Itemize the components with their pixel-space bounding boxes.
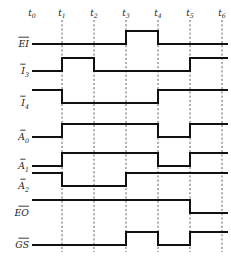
- waveform-EI: [32, 31, 228, 44]
- signal-label-A0: A0: [17, 131, 29, 144]
- signal-label-A2: A2: [17, 180, 29, 193]
- time-tick-label-t6: t6: [218, 8, 226, 19]
- time-tick-label-t5: t5: [186, 8, 194, 19]
- timing-diagram-canvas: t0t1t2t3t4t5t6 EII3I4A0A1A2EOGS: [0, 0, 231, 258]
- waveform-I4: [32, 90, 228, 103]
- timing-diagram: t0t1t2t3t4t5t6 EII3I4A0A1A2EOGS: [0, 0, 231, 258]
- time-tick-label-t2: t2: [90, 8, 98, 19]
- waveform-GS: [32, 232, 228, 245]
- signal-label-EI: EI: [18, 38, 30, 49]
- signal-label-I4: I4: [20, 97, 29, 110]
- signal-label-EO: EO: [14, 207, 30, 218]
- waveform-A0: [32, 124, 228, 137]
- signal-labels-group: EII3I4A0A1A2EOGS: [14, 37, 30, 250]
- waveform-A2: [32, 173, 228, 186]
- time-tick-label-t1: t1: [58, 8, 66, 19]
- signal-label-A1: A1: [17, 160, 29, 173]
- signal-label-GS: GS: [15, 239, 29, 250]
- waveform-I3: [32, 58, 228, 71]
- time-tick-label-t4: t4: [154, 8, 162, 19]
- waveform-EO: [32, 200, 228, 213]
- time-tick-label-t0: t0: [28, 8, 36, 19]
- gridlines-group: [62, 20, 222, 252]
- signal-label-I3: I3: [20, 65, 29, 78]
- time-tick-labels-group: t0t1t2t3t4t5t6: [28, 8, 226, 19]
- waveforms-group: [32, 31, 228, 245]
- waveform-A1: [32, 153, 228, 166]
- time-tick-label-t3: t3: [122, 8, 130, 19]
